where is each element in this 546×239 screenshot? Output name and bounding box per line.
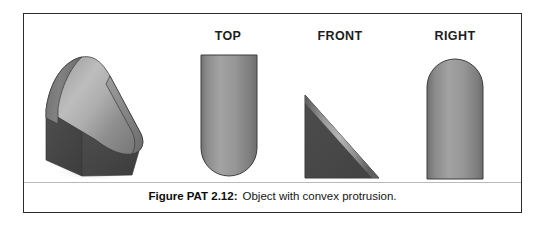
right-view-outline [427,59,483,179]
figure-caption: Figure PAT 2.12:Object with convex protr… [23,190,522,202]
isometric-pictorial-view [36,48,154,180]
top-view-outline [201,55,257,176]
figure-caption-text: Object with convex protrusion. [243,190,397,202]
right-view-drawing [424,54,486,182]
view-label-top: TOP [200,29,256,43]
top-view-drawing [198,52,260,182]
front-view-drawing [302,92,382,182]
view-label-front: FRONT [303,29,377,43]
figure-container: TOP FRONT RIGHT [0,0,546,239]
view-label-right: RIGHT [424,29,486,43]
caption-divider-rule [24,182,521,183]
figure-caption-label: Figure PAT 2.12: [148,190,237,202]
